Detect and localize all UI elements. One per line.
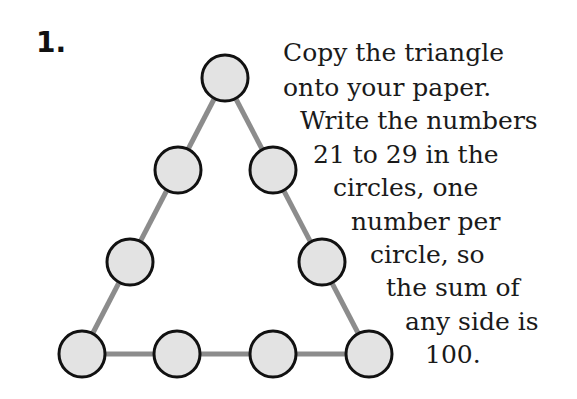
circle-bottom-1 [59, 331, 105, 377]
instruction-line: any side is [405, 309, 538, 334]
circle-left-2 [107, 239, 153, 285]
puzzle-page: 1. Copy the triangle onto your paper. Wr… [0, 0, 577, 399]
instruction-line: the sum of [386, 275, 520, 300]
circle-left-1 [155, 147, 201, 193]
circle-bottom-3 [250, 331, 296, 377]
instruction-line: circle, so [370, 242, 485, 267]
circle-right-2 [299, 239, 345, 285]
instruction-line: number per [351, 209, 500, 234]
number-circles [59, 55, 392, 377]
circle-bottom-2 [154, 331, 200, 377]
instruction-line: 21 to 29 in the [313, 142, 499, 167]
instruction-line: Write the numbers [300, 108, 538, 133]
instruction-line: circles, one [333, 175, 478, 200]
circle-right-1 [250, 147, 296, 193]
instruction-line: Copy the triangle [283, 40, 504, 65]
instruction-line: 100. [425, 342, 481, 367]
circle-top [202, 55, 248, 101]
circle-bottom-4 [346, 331, 392, 377]
instruction-line: onto your paper. [283, 75, 491, 100]
